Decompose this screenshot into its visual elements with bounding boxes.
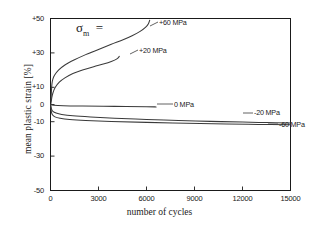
label-minus-20-mpa: -20 MPa [254,108,280,117]
curve-0-mpa [51,105,157,107]
label-plus-60-mpa: +60 MPa [159,18,187,27]
y-tick-label: 0 [22,100,44,109]
x-tick-label: 0 [31,194,71,203]
x-axis-ticks [51,187,291,191]
figure: mean plastic strain [%] number of cycles… [0,0,319,231]
x-axis-title: number of cycles [0,207,319,217]
x-tick-label: 15000 [271,194,311,203]
x-tick-label: 6000 [127,194,167,203]
sigma-glyph: σ [76,20,83,35]
sigma-subscript-m: m [83,29,89,38]
x-tick-label: 9000 [175,194,215,203]
y-tick-label: +30 [22,48,44,57]
x-tick-label: 12000 [223,194,263,203]
label-zero-mpa: 0 MPa [174,100,194,109]
y-tick-label: +50 [22,14,44,23]
label-plus-20-mpa: +20 MPa [139,46,167,55]
y-tick-label: -10 [22,117,44,126]
equals-sign: = [93,20,104,35]
y-tick-label: -30 [22,151,44,160]
y-tick-label: +10 [22,82,44,91]
curve--20-mpa [51,56,119,103]
x-tick-label: 3000 [79,194,119,203]
plot-frame [51,19,291,191]
label-minus-60-mpa: -60 MPa [279,120,305,129]
sigma-m-legend-title: σm = [76,20,103,38]
